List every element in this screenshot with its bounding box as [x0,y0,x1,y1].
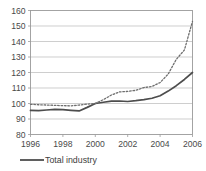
chart-legend: Total industry [20,155,97,165]
x-axis-tick-labels: 199619982000200220042006 [21,139,202,149]
y-tick-label-160: 160 [11,6,26,16]
line-chart: 8090100110120130140150160 19961998200020… [0,0,206,171]
y-tick-label-130: 130 [11,52,26,62]
x-tick-label-2006: 2006 [183,139,202,149]
chart-container: 8090100110120130140150160 19961998200020… [0,0,206,171]
y-tick-label-120: 120 [11,68,26,78]
x-tick-label-1998: 1998 [53,139,72,149]
x-tick-label-2000: 2000 [86,139,105,149]
data-series [31,21,193,111]
series-line-secondary-1 [31,21,193,105]
y-tick-label-90: 90 [16,114,26,124]
y-axis-tick-labels: 8090100110120130140150160 [11,6,30,140]
y-tick-label-140: 140 [11,37,26,47]
x-tick-label-2004: 2004 [151,139,170,149]
legend-label-total-industry: Total industry [45,155,97,165]
x-tick-label-1996: 1996 [21,139,40,149]
y-tick-label-100: 100 [11,99,26,109]
y-tick-label-150: 150 [11,21,26,31]
x-tick-label-2002: 2002 [118,139,137,149]
y-tick-label-110: 110 [12,83,26,93]
